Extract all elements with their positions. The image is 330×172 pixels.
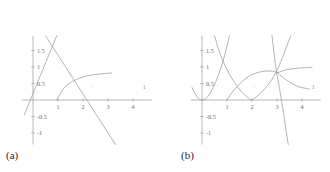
x-tick-label: 2 xyxy=(250,103,253,110)
figure-container: 12341.510.5-0.5-1·1 (a) 12341.510.5-0.5-… xyxy=(0,0,330,172)
annotation-tick-marker: 1 xyxy=(143,84,146,90)
panel-a-label: (a) xyxy=(6,149,18,161)
panel-b-label: (b) xyxy=(181,149,194,161)
series-falling-line xyxy=(46,36,116,145)
y-tick-label: 1 xyxy=(37,63,40,70)
series-descending-curve xyxy=(215,36,253,100)
x-tick-label: 1 xyxy=(56,103,59,110)
y-tick-label: 1 xyxy=(206,63,209,70)
x-tick-label: 3 xyxy=(275,103,278,110)
y-tick-label: -1 xyxy=(206,129,211,136)
panel-b: 12341.510.5-0.5-1·1 (b) xyxy=(165,0,330,172)
annotation-dot-marker: · xyxy=(91,84,93,90)
plot-b: 12341.510.5-0.5-1·1 xyxy=(165,0,330,172)
y-tick-label: 0.5 xyxy=(206,80,214,87)
plot-a: 12341.510.5-0.5-1·1 xyxy=(0,0,165,172)
x-tick-label: 3 xyxy=(106,103,109,110)
series-steep-descending-line xyxy=(272,36,288,145)
panel-a: 12341.510.5-0.5-1·1 (a) xyxy=(0,0,165,172)
series-upper-right-curve xyxy=(277,67,312,73)
y-tick-label: -0.5 xyxy=(37,113,47,120)
series-left-parabola xyxy=(192,36,230,100)
x-tick-label: 4 xyxy=(131,103,134,110)
annotation-tick-marker: 1 xyxy=(312,84,315,90)
y-tick-label: 1.5 xyxy=(206,47,214,54)
series-right-rising-curve xyxy=(252,36,291,100)
x-tick-label: 1 xyxy=(225,103,228,110)
y-tick-label: 1.5 xyxy=(37,47,45,54)
x-tick-label: 2 xyxy=(81,103,84,110)
annotation-dot-marker: · xyxy=(254,84,256,90)
y-tick-label: -1 xyxy=(37,129,42,136)
x-tick-label: 4 xyxy=(300,103,303,110)
series-lower-right-curve xyxy=(278,74,309,90)
y-tick-label: -0.5 xyxy=(206,113,216,120)
